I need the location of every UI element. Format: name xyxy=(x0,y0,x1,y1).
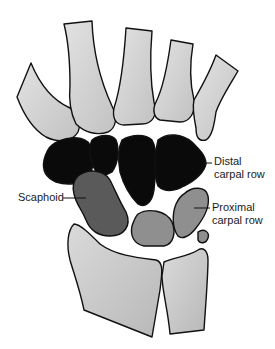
pisiform xyxy=(198,230,208,242)
ulna xyxy=(162,249,208,334)
metacarpal-5 xyxy=(193,55,238,140)
hamate xyxy=(155,135,206,191)
scaphoid xyxy=(73,171,128,236)
proximal-carpal-row-label: Proximal carpal row xyxy=(212,201,263,227)
scaphoid-label: Scaphoid xyxy=(18,191,64,204)
trapezoid xyxy=(90,136,118,175)
wrist-diagram: Distal carpal row Scaphoid Proximal carp… xyxy=(0,0,275,349)
capitate xyxy=(119,136,156,206)
label-line: Proximal xyxy=(212,201,263,214)
distal-carpal-row-label: Distal carpal row xyxy=(214,155,265,181)
metacarpal-3 xyxy=(113,28,155,125)
lunate xyxy=(132,211,174,246)
metacarpal-4 xyxy=(154,40,194,122)
label-line: carpal row xyxy=(212,214,263,227)
label-line: Distal xyxy=(214,155,265,168)
label-line: carpal row xyxy=(214,168,265,181)
